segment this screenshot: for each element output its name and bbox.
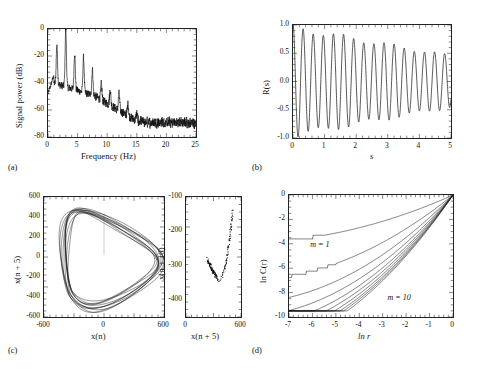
- tick-label: -2: [279, 213, 285, 222]
- tick-label: -200: [168, 225, 182, 234]
- tick-label: -400: [26, 291, 40, 300]
- tick-label: 1: [322, 141, 326, 150]
- tick-label: -4: [279, 238, 285, 247]
- tick-label: -7: [285, 320, 291, 329]
- tick-label: -6: [279, 262, 285, 271]
- tick-label: -200: [26, 271, 40, 280]
- tick-label: -100: [168, 191, 182, 200]
- correlation-integral-curves: [289, 195, 453, 317]
- tick-label: -5: [332, 320, 338, 329]
- tick-label: 5: [75, 140, 79, 149]
- panel-a-x-axis-label: Frequency (Hz): [81, 151, 136, 161]
- tick-label: 0: [101, 320, 105, 329]
- tick-label: -300: [168, 260, 182, 269]
- tick-label: 600: [157, 320, 168, 329]
- tick-label: 0: [183, 320, 187, 329]
- phase-portrait-trace: [44, 197, 164, 317]
- tick-label: 5: [448, 141, 452, 150]
- tick-label: 4: [417, 141, 421, 150]
- panel-a-y-axis-label: Signal power (dB): [14, 64, 24, 129]
- panel-b-y-axis-label: R(s): [261, 80, 271, 95]
- panel-c-left-plot-area: [43, 196, 165, 318]
- tick-label: 2: [353, 141, 357, 150]
- panel-b-plot-area: [292, 24, 452, 139]
- panel-a-label: (a): [8, 162, 17, 172]
- tick-label: 600: [234, 320, 245, 329]
- tick-label: -600: [36, 320, 50, 329]
- tick-label: 400: [29, 211, 40, 220]
- panel-d-x-axis-label: ln r: [358, 331, 370, 341]
- panel-c-right-x-axis-label: x(n + 5): [191, 331, 219, 341]
- power-spectrum-trace: [48, 29, 196, 137]
- tick-label: -6: [308, 320, 314, 329]
- tick-label: -60: [34, 104, 44, 113]
- panel-b-x-axis-label: s: [370, 151, 373, 161]
- tick-label: 0.0: [280, 76, 289, 85]
- tick-label: -40: [34, 77, 44, 86]
- tick-label: 3: [385, 141, 389, 150]
- panel-c-right-y-axis-label: x(n + 10): [156, 247, 166, 280]
- panel-c-left-x-axis-label: x(n): [91, 331, 106, 341]
- tick-label: 1.0: [280, 19, 289, 28]
- panel-c-right-plot-area: [185, 196, 242, 318]
- poincare-section-scatter: [186, 197, 241, 317]
- tick-label: 0: [281, 189, 285, 198]
- tick-label: -400: [168, 294, 182, 303]
- tick-label: 0: [45, 140, 49, 149]
- tick-label: 0: [40, 23, 44, 32]
- tick-label: 25: [191, 140, 199, 149]
- tick-label: -1: [425, 320, 431, 329]
- tick-label: -2: [402, 320, 408, 329]
- panel-b-label: (b): [252, 162, 262, 172]
- tick-label: 0.5: [280, 47, 289, 56]
- tick-label: 20: [162, 140, 170, 149]
- panel-c-label: (c): [8, 345, 17, 355]
- panel-c-left-y-axis-label: x(n + 5): [12, 256, 22, 284]
- tick-label: -600: [26, 311, 40, 320]
- panel-d-plot-area: [288, 194, 454, 318]
- tick-label: -3: [379, 320, 385, 329]
- tick-label: 0: [290, 141, 294, 150]
- tick-label: 0: [36, 251, 40, 260]
- tick-label: -10: [275, 311, 285, 320]
- tick-label: 15: [132, 140, 140, 149]
- panel-d-y-axis-label: ln C(r): [258, 259, 268, 283]
- panel-d-label: (d): [252, 345, 262, 355]
- tick-label: -4: [355, 320, 361, 329]
- curve-annotation: m = 10: [388, 293, 411, 302]
- tick-label: 10: [102, 140, 110, 149]
- tick-label: -0.5: [277, 104, 289, 113]
- tick-label: -1.0: [277, 132, 289, 141]
- tick-label: 200: [29, 231, 40, 240]
- tick-label: -20: [34, 50, 44, 59]
- tick-label: -80: [34, 131, 44, 140]
- autocorrelation-trace: [293, 25, 451, 138]
- tick-label: 0: [450, 320, 454, 329]
- curve-annotation: m = 1: [310, 240, 329, 249]
- tick-label: -8: [279, 287, 285, 296]
- tick-label: 600: [29, 191, 40, 200]
- panel-a-plot-area: [47, 28, 197, 138]
